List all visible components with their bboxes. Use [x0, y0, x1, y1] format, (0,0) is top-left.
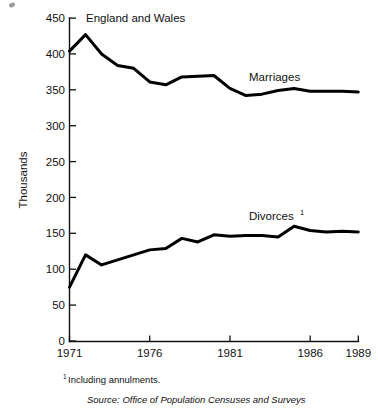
y-tick-label: 450	[46, 12, 65, 24]
y-tick-label: 0	[59, 335, 65, 347]
y-tick-label: 100	[46, 263, 65, 275]
series-label-divorces-group: Divorces 1	[249, 208, 304, 222]
footnote: 1 Including annulments.	[63, 373, 160, 385]
y-tick-label: 200	[46, 192, 65, 204]
x-tick-label: 1971	[57, 347, 83, 359]
y-axis-ticks	[70, 18, 77, 341]
chart-figure: 450 400 350 300 250 200 150 100 50 0 197…	[0, 0, 378, 411]
y-tick-label: 400	[46, 48, 65, 60]
y-tick-label: 150	[46, 227, 65, 239]
chart-title: England and Wales	[86, 12, 186, 24]
x-tick-label: 1989	[346, 347, 372, 359]
series-label-marriages: Marriages	[249, 71, 300, 83]
footnote-marker: 1	[63, 373, 67, 380]
x-axis-tick-labels: 1971 1976 1981 1986 1989	[57, 347, 371, 359]
line-chart: 450 400 350 300 250 200 150 100 50 0 197…	[0, 0, 378, 411]
y-tick-label: 350	[46, 84, 65, 96]
source-text: Source: Office of Population Censuses an…	[87, 394, 306, 405]
x-axis-ticks	[70, 336, 359, 342]
y-axis-title: Thousands	[17, 151, 29, 208]
series-line-divorces	[70, 226, 359, 287]
footnote-text: Including annulments.	[68, 374, 160, 385]
y-tick-label: 250	[46, 156, 65, 168]
scan-artifact-speck	[8, 2, 16, 9]
series-line-marriages	[70, 35, 359, 96]
series-label-divorces: Divorces	[249, 210, 294, 222]
series-label-divorces-superscript: 1	[300, 208, 304, 217]
y-tick-label: 300	[46, 120, 65, 132]
x-tick-label: 1976	[137, 347, 163, 359]
y-axis-tick-labels: 450 400 350 300 250 200 150 100 50 0	[46, 12, 65, 347]
x-tick-label: 1981	[217, 347, 243, 359]
x-tick-label: 1986	[297, 347, 323, 359]
y-tick-label: 50	[52, 299, 65, 311]
